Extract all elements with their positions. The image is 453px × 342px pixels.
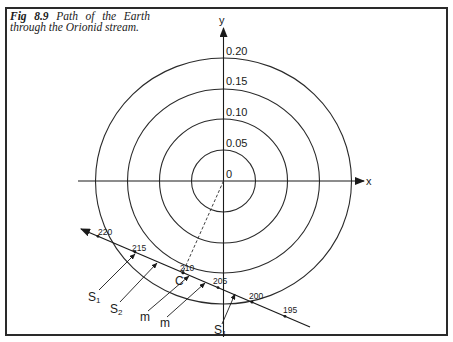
date-tick-205: 205 [213, 276, 227, 286]
stream-label-s1-right: S1 [214, 323, 227, 338]
arrow-m-left [148, 276, 189, 311]
circle-label-0-20: 0.20 [226, 45, 247, 57]
date-tick-215: 215 [132, 243, 146, 253]
stream-label-s2: S2 [110, 302, 123, 317]
x-axis-label: x [366, 175, 372, 187]
date-tick-195: 195 [283, 305, 297, 315]
stream-label-m-right: m [160, 316, 170, 330]
orionid-diagram: x y 0 0.20 0.15 0.10 0.05 220 215 210 20… [0, 0, 453, 342]
circle-label-0-10: 0.10 [226, 106, 247, 118]
origin-label: 0 [226, 168, 232, 180]
y-axis-label: y [219, 14, 225, 26]
stream-label-m-left: m [140, 310, 150, 324]
date-tick-200: 200 [249, 291, 263, 301]
stream-label-s1-left: S1 [88, 290, 101, 305]
arrow-m-right [167, 283, 205, 317]
sun-to-closest-point-dashed [183, 181, 224, 272]
circle-label-0-15: 0.15 [226, 75, 247, 87]
circle-label-0-05: 0.05 [226, 137, 247, 149]
date-tick-220: 220 [98, 227, 112, 237]
arrow-s1-left [99, 254, 135, 290]
date-tick-210: 210 [180, 263, 194, 273]
